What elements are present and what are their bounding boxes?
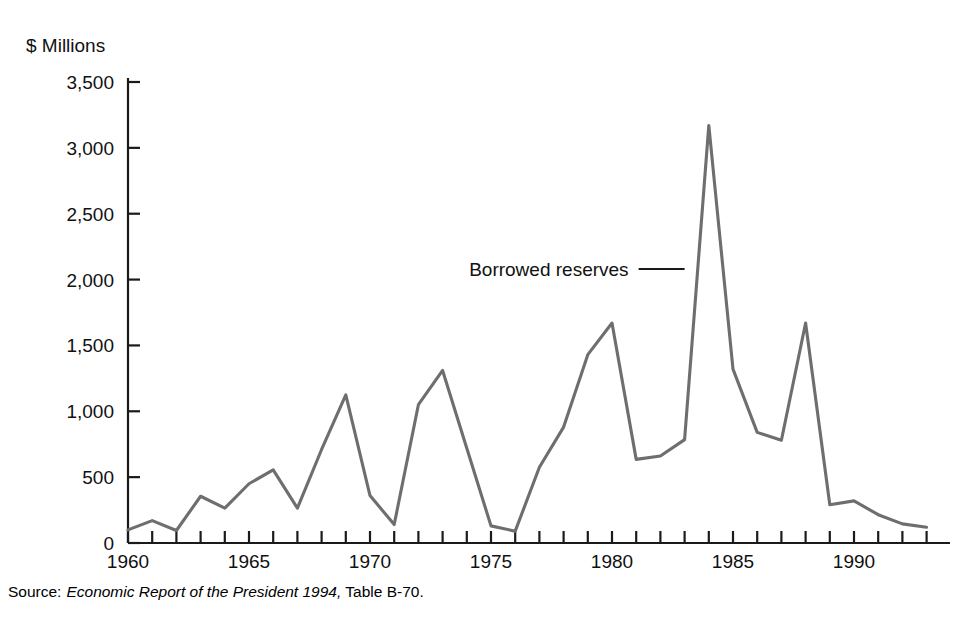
series-annotation-label: Borrowed reserves [469,259,628,280]
y-axis-unit-label-group: $ Millions [26,35,105,56]
plot-area [128,125,927,531]
x-axis: 1960196519701975198019851990 [107,531,950,572]
y-axis-tick-label: 3,000 [66,138,114,159]
source-note: Source:Economic Report of the President … [8,583,424,601]
borrowed-reserves-line-chart: $ Millions 05001,0001,5002,0002,5003,000… [0,0,966,627]
annotation-group: Borrowed reserves [469,259,684,280]
y-axis-tick-labels: 05001,0001,5002,0002,5003,0003,500 [66,72,114,554]
x-axis-tick-label: 1960 [107,551,149,572]
source-table-ref: Table B-70. [345,583,423,600]
x-axis-tick-label: 1965 [228,551,270,572]
chart-figure: $ Millions 05001,0001,5002,0002,5003,000… [0,0,966,627]
y-axis-tick-label: 3,500 [66,72,114,93]
x-axis-tick-labels: 1960196519701975198019851990 [107,551,875,572]
y-axis-unit-label: $ Millions [26,35,105,56]
y-axis-tick-label: 2,000 [66,270,114,291]
x-axis-tick-label: 1980 [591,551,633,572]
series-line-borrowed-reserves [128,125,927,531]
y-axis-ticks [128,82,140,543]
y-axis-tick-label: 1,500 [66,335,114,356]
y-axis-tick-label: 500 [82,467,114,488]
y-axis: 05001,0001,5002,0002,5003,0003,500 [66,72,140,554]
x-axis-tick-label: 1975 [470,551,512,572]
x-axis-tick-label: 1990 [833,551,875,572]
x-axis-tick-label: 1970 [349,551,391,572]
source-title: Economic Report of the President 1994, [61,583,341,600]
y-axis-tick-label: 2,500 [66,204,114,225]
x-axis-minor-ticks [128,531,927,543]
x-axis-tick-label: 1985 [712,551,754,572]
y-axis-tick-label: 1,000 [66,401,114,422]
source-label: Source: [8,583,61,600]
